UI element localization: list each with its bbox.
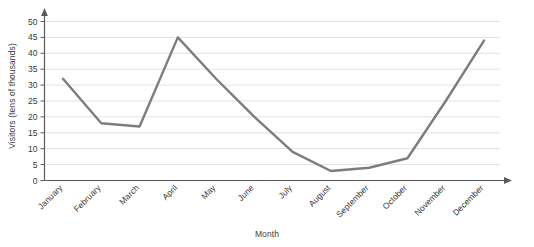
y-tick-label: 0 bbox=[33, 176, 38, 186]
y-tick-label: 10 bbox=[28, 144, 38, 154]
y-tick-label: 30 bbox=[28, 80, 38, 90]
x-tick-label: March bbox=[117, 183, 141, 207]
y-tick-label: 35 bbox=[28, 64, 38, 74]
x-axis-arrowhead bbox=[504, 177, 512, 184]
axis-lines bbox=[41, 8, 512, 184]
gridlines bbox=[45, 22, 501, 165]
y-tick-label: 5 bbox=[33, 160, 38, 170]
x-tick-label: January bbox=[36, 182, 65, 211]
x-tick-label: July bbox=[276, 182, 294, 200]
x-tick-label: November bbox=[412, 183, 447, 218]
y-tick-labels: 05101520253035404550 bbox=[28, 17, 38, 186]
x-tick-label: October bbox=[380, 183, 409, 212]
y-tick-label: 15 bbox=[28, 128, 38, 138]
y-tick-label: 50 bbox=[28, 17, 38, 27]
y-tick-label: 20 bbox=[28, 112, 38, 122]
y-tick-label: 45 bbox=[28, 32, 38, 42]
x-tick-label: August bbox=[307, 182, 333, 208]
x-tick-label: February bbox=[72, 182, 104, 214]
y-tick-label: 25 bbox=[28, 96, 38, 106]
y-axis-arrowhead bbox=[41, 8, 48, 16]
x-tick-labels: JanuaryFebruaryMarchAprilMayJuneJulyAugu… bbox=[36, 182, 486, 219]
line-chart: Visitors (tens of thousands) 05101520253… bbox=[0, 0, 534, 247]
x-axis-title: Month bbox=[0, 229, 534, 239]
chart-canvas: 05101520253035404550 JanuaryFebruaryMarc… bbox=[0, 0, 534, 247]
y-tick-label: 40 bbox=[28, 48, 38, 58]
x-tick-label: December bbox=[451, 183, 486, 218]
x-tick-label: April bbox=[160, 183, 179, 202]
x-tick-label: May bbox=[199, 182, 218, 201]
x-tick-label: June bbox=[236, 183, 256, 203]
data-line-series bbox=[63, 37, 484, 171]
data-line bbox=[63, 37, 484, 171]
x-tick-label: September bbox=[334, 183, 371, 220]
